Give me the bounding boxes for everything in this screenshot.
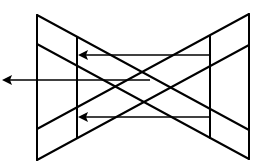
right-triangle [37,14,249,159]
top-arrow [78,50,210,60]
bottom-arrow [78,112,210,122]
left-triangle [37,15,249,160]
bowtie-triangle-diagram [0,0,265,166]
